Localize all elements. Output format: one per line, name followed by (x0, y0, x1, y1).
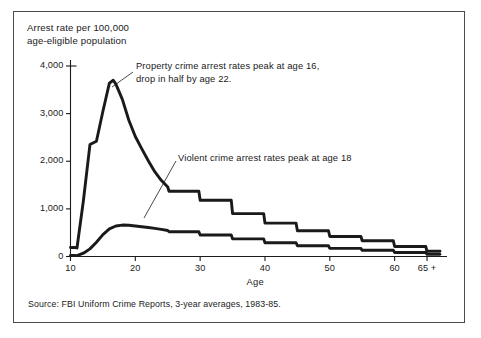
x-tick-label: 20 (118, 263, 152, 273)
y-tick-label: 1,000 (30, 203, 64, 213)
y-tick-label: 3,000 (30, 108, 64, 118)
x-tick-label: 65 + (410, 263, 444, 273)
x-tick-label: 10 (54, 263, 88, 273)
x-tick-label: 30 (183, 263, 217, 273)
x-axis-title: Age (225, 276, 285, 287)
chart-figure: Arrest rate per 100,000 age-eligible pop… (0, 0, 481, 338)
x-tick-label: 60 (378, 263, 412, 273)
chart-plot-area (0, 0, 481, 338)
y-tick-label: 4,000 (30, 60, 64, 70)
y-tick-label: 2,000 (30, 155, 64, 165)
data-series-group (71, 80, 441, 255)
y-tick-label: 0 (30, 251, 64, 261)
x-tick-label: 40 (248, 263, 282, 273)
source-note: Source: FBI Uniform Crime Reports, 3-yea… (28, 299, 281, 309)
violent-leader (144, 161, 176, 218)
property-crime-annotation: Property crime arrest rates peak at age … (136, 60, 319, 85)
x-tick-label: 50 (313, 263, 347, 273)
violent-crime-annotation: Violent crime arrest rates peak at age 1… (178, 152, 352, 165)
